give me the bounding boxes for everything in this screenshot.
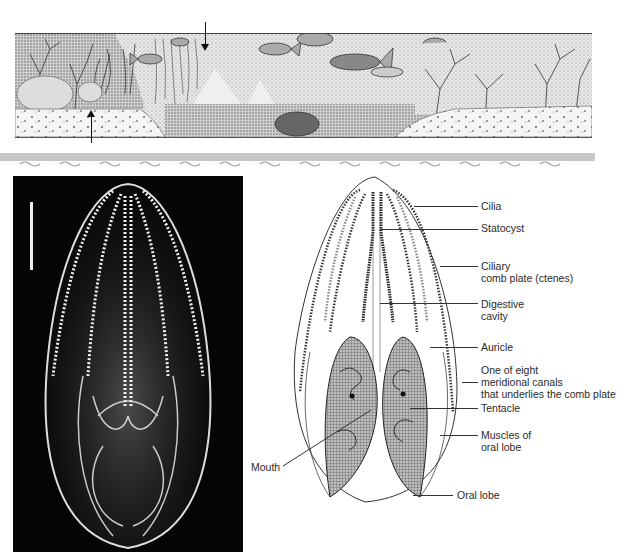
- leader-muscles-oral-lobe: [440, 435, 478, 436]
- leader-cilia: [414, 206, 478, 207]
- habitat-drawing: [15, 34, 592, 137]
- arrow-down-head: [201, 44, 209, 51]
- label-auricle: Auricle: [481, 341, 513, 353]
- label-cilia: Cilia: [481, 200, 501, 212]
- scale-bar: [30, 202, 33, 270]
- label-tentacle: Tentacle: [481, 402, 520, 414]
- decorative-divider-band: [0, 153, 595, 161]
- arrow-up-head: [87, 110, 95, 117]
- arrow-down-icon: [205, 22, 206, 44]
- marine-habitat-illustration: [15, 33, 592, 138]
- leader-ciliary-comb-plate: [440, 266, 478, 267]
- label-oral-lobe: Oral lobe: [457, 489, 500, 501]
- label-mouth: Mouth: [251, 461, 280, 473]
- arrow-up-icon: [91, 117, 92, 143]
- label-muscles-of: Muscles of: [481, 429, 531, 441]
- label-ciliary: Ciliary: [481, 260, 510, 272]
- comb-jelly-photo-render: [13, 176, 243, 552]
- label-one-of-eight: One of eight: [481, 364, 538, 376]
- label-statocyst: Statocyst: [481, 222, 524, 234]
- leader-mouth: [283, 408, 373, 468]
- leader-oral-lobe: [413, 495, 453, 496]
- label-digestive: Digestive: [481, 298, 524, 310]
- comb-jelly-photo: [13, 176, 243, 552]
- label-cavity: cavity: [481, 310, 508, 322]
- label-underlies-comb-plate: that underlies the comb plate: [481, 388, 616, 400]
- label-meridional-canals: meridional canals: [481, 376, 563, 388]
- leader-statocyst: [380, 229, 478, 230]
- band-pattern: [0, 159, 595, 167]
- label-comb-plate-ctenes: comb plate (ctenes): [481, 272, 573, 284]
- leader-auricle: [430, 347, 478, 348]
- leader-meridional-canal: [462, 382, 478, 383]
- leader-tentacle: [410, 408, 478, 409]
- label-oral-lobe-muscles: oral lobe: [481, 441, 521, 453]
- leader-digestive-cavity: [380, 303, 478, 304]
